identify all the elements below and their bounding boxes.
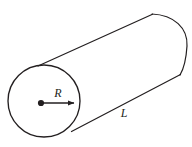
cylinder-near-face-circle (8, 65, 80, 137)
circle-center-dot (38, 100, 44, 106)
cylinder-top-edge-line (38, 14, 153, 66)
cylinder-bottom-edge-line (72, 75, 181, 132)
cylinder-diagram-canvas: R L (0, 0, 192, 147)
cylinder-figure: R L (0, 0, 192, 147)
length-label: L (120, 106, 128, 120)
cylinder-far-end-cap-arc (152, 14, 187, 75)
radius-label: R (53, 86, 62, 100)
